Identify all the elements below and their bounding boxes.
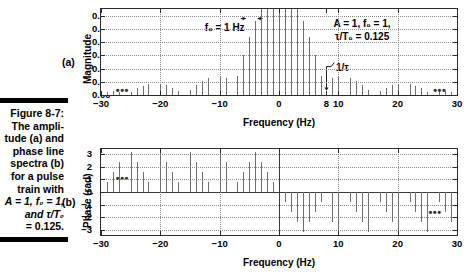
panel-b-x-axis-title: Frequency (Hz) [243,257,315,268]
phase-stem [220,152,221,192]
magnitude-stem [261,9,262,95]
magnitude-x-tick-label: 20 [392,98,403,109]
phase-stem [196,162,197,192]
phase-stem [368,192,369,232]
caption-figure-number: Figure 8-7: [0,107,64,120]
phase-stem [255,152,256,192]
phase-stem [427,192,428,232]
magnitude-stem [172,88,173,95]
phase-y-tick-label: 0 [87,186,92,197]
phase-stem [398,192,399,232]
phase-stem [226,162,227,192]
panel-a-letter: (a) [62,56,75,68]
figure-8-7: Figure 8-7: The ampli- tude (a) and phas… [0,0,464,274]
magnitude-spectrum-panel: ••• ••• f₀ = 1 Hz A = 1, f₀ = 1, τ/T₀ = … [100,8,458,96]
figure-caption-block: Figure 8-7: The ampli- tude (a) and phas… [0,98,68,242]
phase-stem [131,152,132,192]
magnitude-stem [137,88,138,95]
caption-rule-bottom [0,237,68,242]
magnitude-x-tick-label: 30 [452,98,463,109]
phase-stem [350,192,351,202]
phase-stem [386,192,387,212]
panel-a-x-axis-title: Frequency (Hz) [243,117,315,128]
magnitude-stem [279,12,280,95]
caption-line-6: A = 1, f₀ = 1, [0,195,64,208]
phase-stem [362,192,363,222]
magnitude-stem [362,85,363,95]
magnitude-stem [226,78,227,95]
magnitude-stem [415,86,416,95]
magnitude-stem [410,84,411,95]
magnitude-x-tick-label: 10 [333,98,344,109]
magnitude-stem [166,85,167,95]
magnitude-x-tick-label: −10 [212,98,228,109]
magnitude-stem [451,92,452,95]
magnitude-stem [386,88,387,95]
phase-stem [243,172,244,192]
phase-x-tick-label: 20 [392,238,403,249]
magnitude-stem [350,78,351,95]
magnitude-x-tick-label: 0 [276,98,281,109]
phase-stem [119,162,120,192]
phase-stem [166,162,167,192]
magnitude-stem [143,86,144,95]
phase-stem [451,192,452,222]
magnitude-stem [303,21,304,95]
phase-spectrum-panel: ••• ••• [100,148,458,236]
magnitude-stem [202,81,203,95]
phase-stem [202,172,203,192]
phase-y-tick-label: 3 [87,148,92,159]
phase-stem [321,192,322,202]
phase-stem [415,192,416,212]
phase-stem [249,162,250,192]
phase-x-tick-label: −10 [212,238,228,249]
phase-stem [137,162,138,192]
phase-stem [107,182,108,192]
caption-line-4: for a pulse [0,170,64,183]
magnitude-stem [178,91,179,95]
phase-stem [439,192,440,202]
magnitude-gridline-v-3 [398,9,399,95]
magnitude-stem [315,55,316,95]
phase-plot-area: ••• ••• [100,148,458,236]
caption-line-8: = 0.125. [0,220,64,233]
annotation-parameters: A = 1, f₀ = 1, τ/T₀ = 0.125 [334,17,391,43]
magnitude-stem [196,85,197,95]
phase-stem [261,162,262,192]
magnitude-stem [445,91,446,95]
annotation-parameters-line2: τ/T₀ = 0.125 [335,31,389,42]
phase-x-tick-label: 10 [333,238,344,249]
phase-stem [410,192,411,202]
magnitude-stem [243,55,244,95]
phase-stem [190,152,191,192]
magnitude-stem [297,9,298,95]
phase-stem [160,152,161,192]
phase-stem [273,182,274,192]
magnitude-stem [273,8,274,95]
phase-stem [237,182,238,192]
magnitude-stem [208,78,209,95]
phase-stem [332,192,333,222]
phase-stem [356,192,357,212]
magnitude-stem [321,76,322,95]
magnitude-x-tick-label: −20 [152,98,168,109]
magnitude-stem [356,81,357,95]
phase-stem [113,172,114,192]
phase-stem [285,192,286,202]
panel-b-letter: (b) [62,196,75,208]
magnitude-stem [148,84,149,95]
phase-y-tick-label: 1 [87,173,92,184]
magnitude-stem [249,37,250,95]
phase-y-tick-label: 2 [87,160,92,171]
phase-stem [392,192,393,222]
phase-stem [309,192,310,222]
magnitude-x-tick-label: −30 [93,98,109,109]
phase-stem [148,182,149,192]
magnitude-stem [190,90,191,95]
phase-stem [172,172,173,192]
magnitude-stem [427,92,428,95]
magnitude-stem [113,91,114,95]
magnitude-stem [131,92,132,95]
caption-line-2: phase line [0,145,64,158]
phase-axis-zero-v [279,149,280,235]
